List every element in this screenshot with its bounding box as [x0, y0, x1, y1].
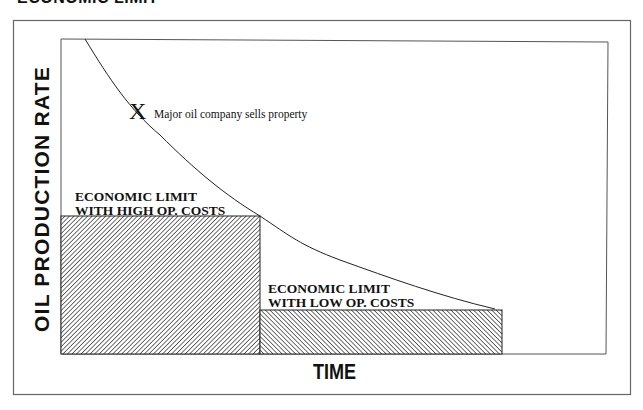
low-cost-label-line2: WITH LOW OP. COSTS [268, 296, 414, 310]
sale-point-annotation: Major oil company sells property [154, 108, 307, 120]
y-axis-label: OIL PRODUCTION RATE [30, 66, 54, 332]
high-cost-label: ECONOMIC LIMIT WITH HIGH OP. COSTS [75, 190, 225, 218]
sale-point-marker: X [129, 98, 146, 125]
high-cost-label-line1: ECONOMIC LIMIT [75, 190, 225, 204]
high-cost-economic-limit-region [61, 216, 260, 354]
high-cost-label-line2: WITH HIGH OP. COSTS [75, 204, 225, 218]
low-cost-label-line1: ECONOMIC LIMIT [268, 282, 414, 296]
low-cost-label: ECONOMIC LIMIT WITH LOW OP. COSTS [268, 282, 414, 310]
x-axis-label: TIME [313, 359, 356, 385]
low-cost-economic-limit-region [260, 310, 502, 354]
